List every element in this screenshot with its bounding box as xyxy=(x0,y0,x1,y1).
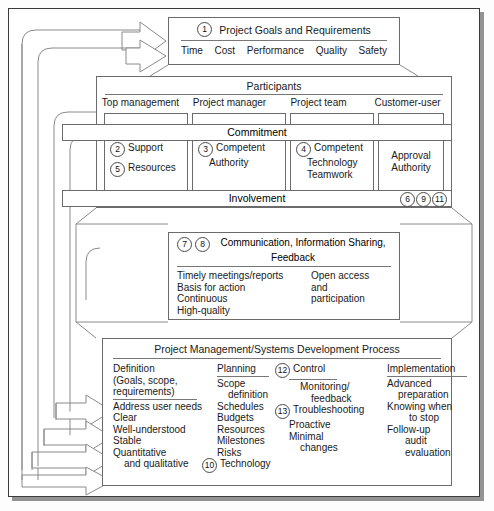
process-col-rule xyxy=(113,399,197,400)
commitment-label: Commitment xyxy=(63,125,451,140)
process-columns: Definition (Goals, scope, requirements) … xyxy=(103,359,451,473)
process-item: evaluation xyxy=(387,447,467,459)
process-item-numbered: 13 Troubleshooting xyxy=(275,404,387,419)
process-col-rule xyxy=(387,376,467,377)
participant-col-customer-user: Customer-user xyxy=(363,97,452,108)
process-item: Follow-up xyxy=(387,424,467,436)
process-item: audit xyxy=(387,435,467,447)
process-col-header: Control xyxy=(293,363,325,375)
circled-number-6: 6 xyxy=(400,192,415,207)
commitment-cell-top-management: 2 Support 5 Resources xyxy=(110,142,186,189)
goals-item-time: Time xyxy=(181,45,203,57)
process-item: Milestones xyxy=(217,435,289,447)
circled-number-5: 5 xyxy=(110,162,125,177)
circled-number-8: 8 xyxy=(195,237,210,252)
circled-number-7: 7 xyxy=(177,237,192,252)
process-item: Scope xyxy=(217,378,289,390)
circled-number-3: 3 xyxy=(198,142,213,157)
communication-box: 7 8 Communication, Information Sharing, … xyxy=(168,232,400,320)
process-item: changes xyxy=(289,442,387,454)
commitment-cell-project-manager: 3 Competent Authority xyxy=(198,142,284,189)
process-item: Knowing when xyxy=(387,401,467,413)
circled-number-4: 4 xyxy=(296,142,311,157)
process-item: to stop xyxy=(387,412,467,424)
communication-left-item: Basis for action xyxy=(177,282,305,294)
process-col-header: Definition xyxy=(113,363,217,375)
communication-left-item: High-quality xyxy=(177,305,305,317)
communication-title-row: 7 8 Communication, Information Sharing, xyxy=(169,233,399,252)
circled-number-2: 2 xyxy=(110,142,125,157)
participants-rule xyxy=(105,94,443,95)
goals-item-cost: Cost xyxy=(215,45,236,57)
process-col-rule xyxy=(289,379,337,380)
goals-title: Project Goals and Requirements xyxy=(219,24,371,36)
process-item: definition xyxy=(217,389,289,401)
commitment-text: Competent xyxy=(314,142,363,154)
participant-col-project-manager: Project manager xyxy=(185,97,274,108)
process-item: Quantitative xyxy=(113,447,217,459)
circled-number-9: 9 xyxy=(416,192,431,207)
goals-item-safety: Safety xyxy=(359,45,387,57)
process-col-rule xyxy=(217,376,269,377)
commitment-line: 5 Resources xyxy=(110,162,186,177)
process-col-header: Implementation xyxy=(387,363,467,375)
diagram-canvas: 1 Project Goals and Requirements Time Co… xyxy=(0,0,494,511)
process-col-header: (Goals, scope, xyxy=(113,375,217,387)
communication-right-item: participation xyxy=(311,293,391,305)
process-box: Project Management/Systems Development P… xyxy=(102,338,452,486)
process-column-implementation: Implementation Advanced preparation Know… xyxy=(387,363,467,473)
communication-left-list: Timely meetings/reports Basis for action… xyxy=(177,270,305,316)
project-goals-box: 1 Project Goals and Requirements Time Co… xyxy=(168,17,400,65)
circled-number-12: 12 xyxy=(275,363,290,378)
circled-number-11: 11 xyxy=(432,192,447,207)
communication-title-line1: Communication, Information Sharing, xyxy=(213,237,393,249)
process-title: Project Management/Systems Development P… xyxy=(103,339,451,355)
process-item: Risks xyxy=(217,447,289,459)
commitment-band: Commitment xyxy=(62,124,452,141)
commitment-text: Teamwork xyxy=(296,169,374,181)
communication-title-line2: Feedback xyxy=(169,252,399,263)
circled-number-1: 1 xyxy=(197,22,212,37)
process-col-header: requirements) xyxy=(113,386,217,398)
circled-number-10: 10 xyxy=(202,458,217,473)
process-column-definition: Definition (Goals, scope, requirements) … xyxy=(113,363,217,473)
process-item: Monitoring/ xyxy=(289,381,387,393)
process-item-numbered: 10 Technology xyxy=(202,458,289,473)
process-col-header-numbered: 12 Control xyxy=(275,363,387,378)
process-item: Well-understood xyxy=(113,424,217,436)
process-item: preparation xyxy=(387,389,467,401)
commitment-text: Authority xyxy=(380,162,442,174)
communication-body: Timely meetings/reports Basis for action… xyxy=(169,267,399,316)
commitment-text: Approval xyxy=(380,142,442,162)
goals-title-row: 1 Project Goals and Requirements xyxy=(169,18,399,37)
process-item: Advanced xyxy=(387,378,467,390)
circled-number-13: 13 xyxy=(275,404,290,419)
process-item: Minimal xyxy=(289,431,387,443)
process-item: Technology xyxy=(220,458,271,470)
process-item: Proactive xyxy=(289,419,387,431)
communication-right-item: Open access xyxy=(311,270,391,282)
communication-left-item: Timely meetings/reports xyxy=(177,270,305,282)
participant-column-headers: Top management Project manager Project t… xyxy=(96,97,452,108)
commitment-cell-customer-user: Approval Authority xyxy=(380,142,442,189)
involvement-band: Involvement 6 9 11 xyxy=(62,190,452,207)
goals-item-performance: Performance xyxy=(247,45,304,57)
process-item: Address user needs xyxy=(113,401,217,413)
communication-right-item: and xyxy=(311,282,391,294)
involvement-numbers: 6 9 11 xyxy=(400,192,447,207)
commitment-text: Authority xyxy=(198,157,284,169)
commitment-line: 4 Competent xyxy=(296,142,374,157)
communication-right-list: Open access and participation xyxy=(311,270,391,316)
process-item: Stable xyxy=(113,435,217,447)
process-item: Troubleshooting xyxy=(293,404,364,416)
participant-col-project-team: Project team xyxy=(274,97,363,108)
commitment-text: Competent xyxy=(216,142,265,154)
communication-left-item: Continuous xyxy=(177,293,305,305)
commitment-line: 3 Competent xyxy=(198,142,284,157)
goals-item-quality: Quality xyxy=(316,45,347,57)
process-item: Clear xyxy=(113,412,217,424)
involvement-label: Involvement xyxy=(63,191,451,206)
process-item: feedback xyxy=(289,393,387,405)
process-item: Resources xyxy=(217,424,289,436)
commitment-text: Resources xyxy=(128,162,176,174)
